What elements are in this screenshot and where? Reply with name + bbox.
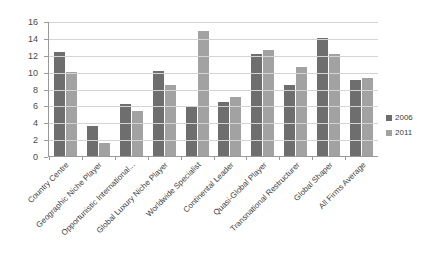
gridline: [49, 106, 378, 107]
legend-swatch-icon: [386, 115, 392, 121]
bar: [296, 67, 307, 156]
x-axis-label: Geographic Niche Player: [35, 161, 104, 230]
gridline: [49, 140, 378, 141]
chart-legend: 2006 2011: [386, 114, 438, 144]
y-tick-label: 4: [33, 119, 38, 128]
bar: [99, 143, 110, 157]
bar: [186, 107, 197, 156]
x-axis-labels: Country CentreGeographic Niche PlayerOpp…: [48, 157, 378, 268]
gridline: [49, 73, 378, 74]
legend-swatch-icon: [386, 130, 392, 136]
gridline: [49, 123, 378, 124]
plot-area: [48, 22, 378, 157]
y-tick-label: 10: [28, 68, 38, 77]
bar: [66, 72, 77, 156]
gridline: [49, 39, 378, 40]
bar: [284, 85, 295, 156]
gridline: [49, 56, 378, 57]
x-axis-label: Transnational Restructurer: [229, 161, 301, 233]
y-axis: 1614121086420: [0, 22, 44, 157]
y-tick-label: 2: [33, 136, 38, 145]
bar: [153, 71, 164, 156]
legend-item-2006: 2006: [386, 114, 438, 122]
y-tick-label: 8: [33, 85, 38, 94]
gridline: [49, 90, 378, 91]
y-tick-label: 6: [33, 102, 38, 111]
legend-item-2011: 2011: [386, 129, 438, 137]
y-tick-label: 12: [28, 51, 38, 60]
y-tick-label: 16: [28, 18, 38, 27]
legend-label: 2006: [395, 114, 413, 122]
bar: [165, 85, 176, 156]
legend-label: 2011: [395, 129, 412, 137]
bar: [218, 102, 229, 156]
y-tick-label: 0: [33, 153, 38, 162]
bar: [132, 111, 143, 156]
bar-chart: 1614121086420 Country CentreGeographic N…: [0, 0, 440, 268]
gridline: [49, 22, 378, 23]
bar: [198, 31, 209, 156]
bar: [350, 80, 361, 156]
bar: [120, 104, 131, 156]
y-tick-label: 14: [28, 34, 38, 43]
